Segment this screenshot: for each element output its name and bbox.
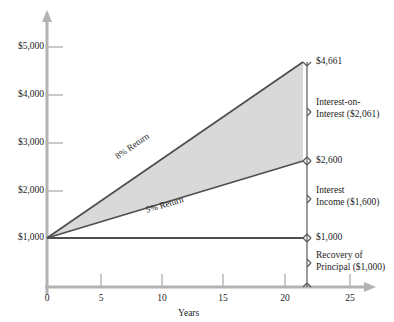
y-tick-label-5000: $5,000: [0, 41, 44, 52]
end-value-label-4661: $4,661: [316, 56, 342, 67]
investment-growth-chart: $5,000 $4,000 $3,000 $2,000 $1,000 0 5 1…: [0, 0, 394, 322]
annotation-interest-income: Interest Income ($1,600): [316, 185, 394, 208]
annotation-interest-on-interest: Interest-on- Interest ($2,061): [316, 97, 394, 120]
x-tick-label-10: 10: [147, 293, 177, 304]
annotation-interest-income-line1: Interest: [316, 185, 394, 197]
y-axis-ticks: [47, 47, 63, 238]
end-value-label-2600: $2,600: [316, 155, 342, 166]
annotation-recovery-of-principal-line1: Recovery of: [316, 250, 394, 262]
x-axis-arrow-icon: [364, 282, 376, 292]
annotation-interest-income-line2: Income ($1,600): [316, 197, 394, 209]
x-tick-label-5: 5: [86, 293, 116, 304]
x-tick-label-25: 25: [335, 293, 365, 304]
annotation-recovery-of-principal-line2: Principal ($1,000): [316, 262, 394, 274]
x-tick-label-20: 20: [270, 293, 300, 304]
x-axis-ticks: [101, 274, 350, 287]
x-tick-label-15: 15: [208, 293, 238, 304]
y-axis-arrow-icon: [42, 10, 52, 22]
end-value-label-1000: $1,000: [316, 232, 342, 243]
annotation-interest-on-interest-line2: Interest ($2,061): [316, 109, 394, 121]
annotation-interest-on-interest-line1: Interest-on-: [316, 97, 394, 109]
annotation-recovery-of-principal: Recovery of Principal ($1,000): [316, 250, 394, 273]
y-tick-label-1000: $1,000: [0, 232, 44, 243]
y-tick-label-4000: $4,000: [0, 89, 44, 100]
x-tick-label-0: 0: [32, 293, 62, 304]
x-axis-title: Years: [178, 308, 199, 319]
y-tick-label-2000: $2,000: [0, 185, 44, 196]
y-tick-label-3000: $3,000: [0, 137, 44, 148]
